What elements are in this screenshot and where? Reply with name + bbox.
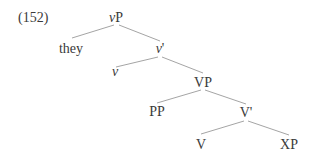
- tree-edges: [72, 25, 289, 135]
- node-V: V: [196, 137, 206, 152]
- example-number: (152): [18, 10, 49, 26]
- node-vP: vP: [109, 10, 123, 25]
- edge-vP-vbar: [119, 25, 160, 41]
- node-they: they: [59, 41, 83, 56]
- node-PP: PP: [149, 104, 165, 119]
- edge-vbar-VP: [162, 57, 203, 73]
- edge-Vbar-XP: [248, 121, 289, 135]
- node-XP: XP: [280, 137, 298, 152]
- edge-vP-they: [72, 25, 114, 38]
- node-v: v: [112, 64, 119, 79]
- edge-VP-PP: [157, 90, 201, 103]
- edge-vbar-v: [116, 57, 158, 67]
- edge-Vbar-V: [201, 121, 244, 134]
- edge-VP-Vbar: [205, 90, 246, 104]
- syntax-tree-diagram: (152) vP they v' v VP PP V' V XP: [0, 0, 313, 160]
- node-VP: VP: [194, 75, 212, 90]
- node-Vbar: V': [240, 105, 253, 120]
- node-vbar: v': [156, 41, 165, 56]
